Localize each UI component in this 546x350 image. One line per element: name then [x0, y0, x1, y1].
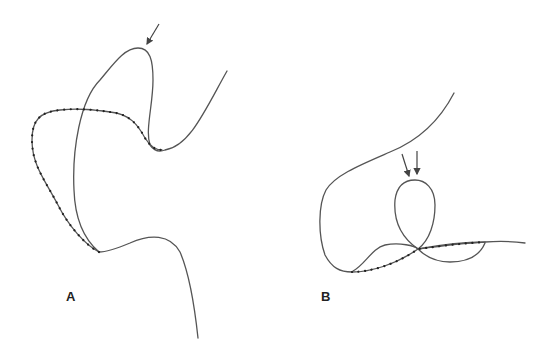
panel-b-arrow-left-icon	[402, 154, 409, 176]
figure-drawing	[0, 0, 546, 350]
figure-canvas: A B	[0, 0, 546, 350]
panel-b-dotted-line	[352, 242, 485, 272]
panel-b-dotted-beads	[352, 242, 485, 272]
panel-a-label: A	[66, 289, 75, 304]
panel-b-inner-wave	[353, 244, 418, 271]
panel-a-dotted-beads	[32, 109, 162, 252]
panel-a-dotted-curve-line	[32, 109, 162, 252]
panel-b-drawing	[320, 93, 525, 272]
panel-a-arrow-icon	[147, 24, 159, 44]
panel-b-loop	[395, 180, 485, 262]
panel-b-label: B	[321, 289, 330, 304]
panel-a-main-curve	[74, 48, 227, 338]
panel-a-drawing	[32, 24, 227, 338]
